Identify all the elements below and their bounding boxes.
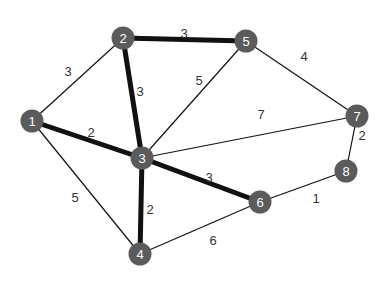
edge-weight-label: 2	[87, 125, 94, 140]
edge-3-6	[142, 158, 260, 202]
node-label: 7	[353, 109, 360, 124]
nodes-layer: 12345678	[21, 27, 369, 266]
edge-weight-label: 2	[146, 202, 153, 217]
edge-weight-label: 3	[136, 84, 143, 99]
edge-weight-label: 5	[195, 73, 202, 88]
weighted-graph-diagram: 3253357326412 12345678	[0, 0, 387, 283]
edge-weight-label: 3	[205, 170, 212, 185]
edge-1-2	[32, 38, 123, 121]
edge-4-6	[140, 202, 260, 254]
node-label: 8	[342, 164, 349, 179]
node-label: 4	[136, 247, 143, 262]
edge-weight-label: 7	[257, 107, 264, 122]
edge-3-4	[140, 158, 142, 254]
edge-weight-label: 3	[64, 64, 71, 79]
edges-layer	[32, 38, 357, 254]
node-label: 5	[242, 34, 249, 49]
node-7: 7	[346, 105, 369, 128]
edge-weight-labels: 3253357326412	[64, 26, 365, 248]
node-label: 6	[256, 195, 263, 210]
edge-weight-label: 3	[180, 26, 187, 41]
node-4: 4	[129, 243, 152, 266]
edge-weight-label: 4	[300, 49, 307, 64]
edge-6-8	[260, 171, 346, 202]
node-5: 5	[235, 30, 258, 53]
node-label: 1	[28, 114, 35, 129]
edge-weight-label: 5	[71, 190, 78, 205]
node-label: 2	[119, 31, 126, 46]
node-2: 2	[112, 27, 135, 50]
edge-weight-label: 6	[209, 233, 216, 248]
node-8: 8	[335, 160, 358, 183]
node-3: 3	[131, 147, 154, 170]
edge-weight-label: 1	[312, 191, 319, 206]
node-6: 6	[249, 191, 272, 214]
node-label: 3	[138, 151, 145, 166]
node-1: 1	[21, 110, 44, 133]
edge-weight-label: 2	[358, 128, 365, 143]
